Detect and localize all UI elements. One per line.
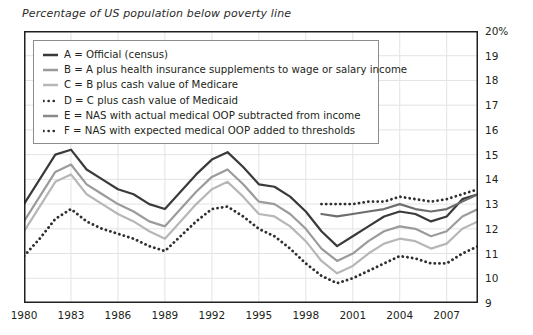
legend-line-d-icon — [43, 95, 58, 107]
legend-item: A = Official (census) — [43, 47, 370, 62]
legend-item-label: E = NAS with actual medical OOP subtract… — [64, 110, 361, 122]
x-tick-label: 2001 — [339, 309, 366, 321]
x-tick-label: 1998 — [292, 309, 319, 321]
data-series — [24, 150, 478, 284]
legend-item: D = C plus cash value of Medicaid — [43, 93, 370, 108]
x-tick-label: 1986 — [105, 309, 132, 321]
y-tick-label: 19 — [485, 50, 498, 62]
x-tick-label: 1983 — [58, 309, 85, 321]
legend-item: E = NAS with actual medical OOP subtract… — [43, 109, 370, 124]
y-tick-label: 15 — [485, 149, 498, 161]
chart-legend: A = Official (census)B = A plus health i… — [33, 40, 379, 144]
legend-line-a-icon — [43, 49, 58, 61]
legend-line-b-icon — [43, 64, 58, 76]
y-tick-label: 12 — [485, 223, 498, 235]
series-line-D — [24, 207, 478, 284]
y-tick-label: 18 — [485, 74, 498, 86]
x-tick-label: 1995 — [245, 309, 272, 321]
x-tick-label: 1989 — [152, 309, 179, 321]
y-tick-label: 13 — [485, 198, 498, 210]
y-axis-tick-labels: 20%191817161514131211109 — [485, 31, 531, 303]
y-tick-label: 14 — [485, 173, 498, 185]
y-tick-label: 20% — [485, 25, 508, 37]
chart-title: Percentage of US population below povert… — [22, 7, 291, 20]
x-tick-label: 1980 — [11, 309, 38, 321]
y-tick-label: 10 — [485, 272, 498, 284]
legend-item-label: F = NAS with expected medical OOP added … — [64, 125, 355, 137]
legend-line-f-icon — [43, 125, 58, 137]
x-tick-label: 1992 — [198, 309, 225, 321]
legend-item: C = B plus cash value of Medicare — [43, 78, 370, 93]
poverty-line-chart-figure: Percentage of US population below povert… — [0, 0, 533, 335]
legend-item-label: A = Official (census) — [64, 49, 168, 61]
legend-item: B = A plus health insurance supplements … — [43, 62, 370, 77]
legend-item-label: B = A plus health insurance supplements … — [64, 64, 407, 76]
legend-item: F = NAS with expected medical OOP added … — [43, 124, 370, 139]
x-tick-label: 2004 — [386, 309, 413, 321]
x-axis-tick-labels: 1980198319861989199219951998200120042007 — [0, 309, 533, 331]
legend-line-c-icon — [43, 79, 58, 91]
y-tick-label: 11 — [485, 248, 498, 260]
x-tick-label: 2007 — [433, 309, 460, 321]
y-tick-label: 9 — [485, 297, 492, 309]
y-tick-label: 16 — [485, 124, 498, 136]
y-tick-label: 17 — [485, 99, 498, 111]
legend-item-label: D = C plus cash value of Medicaid — [64, 95, 238, 107]
legend-item-label: C = B plus cash value of Medicare — [64, 79, 238, 91]
legend-line-e-icon — [43, 110, 58, 122]
